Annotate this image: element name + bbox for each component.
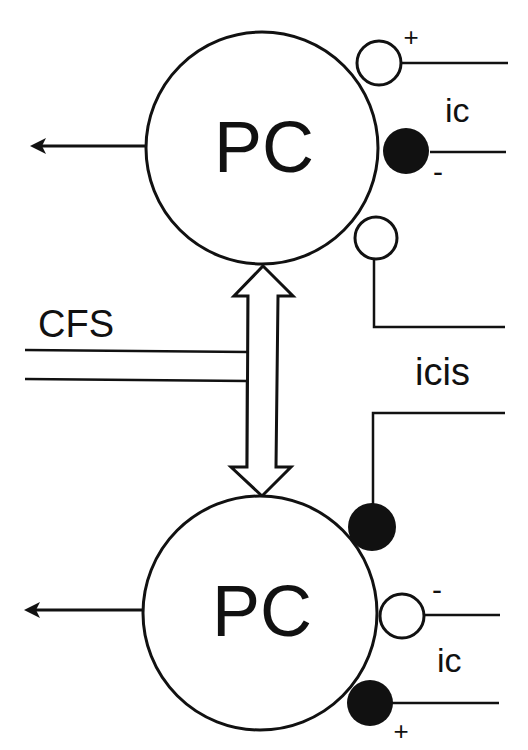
top-ic-label: ic [445, 91, 470, 129]
bottom-icis-filled-terminal [348, 503, 396, 551]
bottom-pc-cell: PC [143, 496, 377, 730]
bottom-ic-label: ic [437, 641, 462, 679]
bottom-ic-inhibitory-open-synapse: - [380, 573, 500, 638]
bottom-ic-excitatory-filled-synapse: + [347, 680, 499, 746]
bottom-pc-label: PC [212, 571, 312, 651]
top-ic-inhibitory-synapse: - [383, 128, 506, 188]
top-minus-sign: - [433, 155, 443, 188]
bottom-plus-sign: + [393, 716, 408, 746]
top-pc-label: PC [214, 107, 314, 187]
top-output-arrow [30, 138, 146, 154]
cfs-label: CFS [38, 303, 114, 345]
top-ic-excitatory-synapse: + [357, 22, 508, 85]
bottom-output-arrow [24, 602, 143, 618]
top-plus-sign: + [403, 22, 418, 52]
bottom-icis-synapse [373, 413, 505, 510]
icis-label: icis [415, 351, 470, 393]
top-icis-synapse [355, 217, 505, 327]
top-pc-cell: PC [146, 32, 378, 264]
bottom-minus-sign: - [432, 573, 442, 606]
